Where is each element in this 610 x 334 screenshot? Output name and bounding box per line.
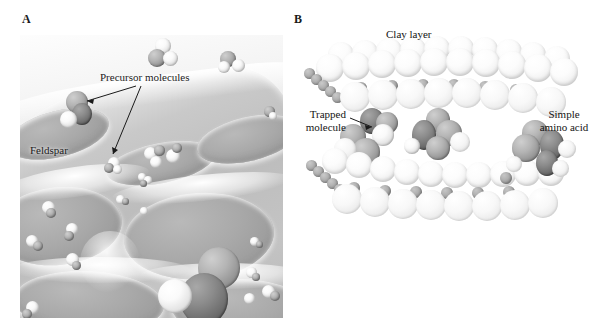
- molecule-atom: [218, 61, 230, 73]
- molecule-atom: [163, 51, 178, 66]
- clay-sphere: [424, 78, 454, 108]
- clay-sphere: [466, 162, 492, 188]
- label-trapped-molecule: Trapped molecule: [292, 108, 346, 133]
- molecule-atom: [244, 293, 255, 304]
- label-clay-layer: Clay layer: [386, 28, 432, 41]
- trapped-molecule-atom: [426, 136, 450, 160]
- molecule-atom: [256, 241, 263, 248]
- molecule-atom: [46, 208, 56, 218]
- molecule-atom: [172, 143, 182, 153]
- label-trapped-line1: Trapped: [292, 108, 346, 121]
- clay-sphere: [394, 159, 420, 185]
- clay-sphere: [480, 80, 510, 110]
- molecule-atom: [60, 111, 77, 128]
- clay-sphere: [342, 52, 370, 80]
- clay-sphere: [360, 187, 390, 217]
- clay-sphere: [500, 190, 530, 220]
- molecule-atom: [33, 241, 43, 251]
- clay-sphere: [370, 156, 396, 182]
- molecule-atom: [150, 156, 162, 168]
- clay-sphere: [446, 48, 474, 76]
- molecule-atom: [252, 273, 260, 281]
- molecule-atom: [154, 145, 165, 156]
- label-amino-line1: Simple: [526, 108, 602, 121]
- clay-sphere: [368, 80, 398, 110]
- label-trapped-line2: molecule: [292, 121, 346, 134]
- molecule-atom: [140, 207, 148, 215]
- clay-sphere: [550, 58, 578, 86]
- amino-acid-atom: [506, 156, 522, 172]
- molecule-atom: [232, 59, 245, 72]
- molecule-atom: [122, 198, 129, 205]
- clay-sphere: [322, 148, 348, 174]
- clay-sphere: [528, 188, 558, 218]
- molecule-atom: [72, 261, 81, 270]
- panel-b-image: [300, 20, 610, 320]
- label-precursor-molecules: Precursor molecules: [100, 71, 190, 84]
- clay-sphere: [394, 49, 422, 77]
- label-simple-amino-acid: Simple amino acid: [526, 108, 602, 133]
- amino-acid-atom: [500, 172, 512, 184]
- panel-letter-a: A: [22, 12, 31, 27]
- amino-acid-atom: [558, 140, 576, 158]
- large-molecule-atom: [158, 279, 192, 313]
- label-feldspar: Feldspar: [30, 144, 68, 157]
- clay-sphere: [444, 191, 474, 221]
- clay-sphere: [420, 48, 448, 76]
- clay-sphere: [472, 191, 502, 221]
- figure-root: A: [0, 0, 610, 334]
- molecule-atom: [270, 291, 280, 301]
- clay-sphere: [498, 51, 526, 79]
- clay-sphere: [416, 190, 446, 220]
- feldspar-groove: [80, 231, 140, 293]
- trapped-molecule-atom: [404, 138, 420, 154]
- clay-sphere: [452, 78, 482, 108]
- trapped-molecule-atom: [450, 132, 470, 152]
- clay-sphere: [388, 189, 418, 219]
- amino-acid-atom: [552, 160, 569, 177]
- clay-sphere: [346, 152, 372, 178]
- molecule-atom: [269, 112, 277, 120]
- clay-sphere: [472, 49, 500, 77]
- clay-sphere: [418, 161, 444, 187]
- clay-sphere: [332, 184, 362, 214]
- clay-sphere: [368, 50, 396, 78]
- molecule-atom: [140, 180, 147, 187]
- molecule-atom: [64, 231, 74, 241]
- clay-sphere: [524, 54, 552, 82]
- molecule-atom: [22, 309, 32, 318]
- clay-sphere: [396, 79, 426, 109]
- label-amino-line2: amino acid: [526, 121, 602, 134]
- clay-sphere: [442, 162, 468, 188]
- precursor-molecule-atom: [113, 165, 122, 174]
